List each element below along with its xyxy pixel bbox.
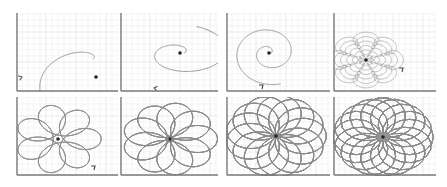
arrow-head-icon	[18, 76, 22, 81]
panel-5-epicycle-loops-sparse	[16, 97, 118, 176]
panel-3-spiral-multiple-turns	[226, 13, 330, 92]
panel-2-spiral-one-and-half-turns	[120, 13, 218, 92]
center-dot	[94, 75, 98, 79]
center-dot	[381, 135, 385, 139]
panel-1-open-spiral-single-turn	[16, 13, 118, 92]
center-dot	[364, 58, 368, 62]
end-marker-icon	[399, 68, 403, 72]
grid-lines	[226, 13, 330, 92]
grid-lines	[16, 97, 118, 176]
end-marker-icon	[259, 85, 263, 89]
end-marker-icon	[91, 166, 95, 170]
panel-7-epicycle-loops-dense	[226, 97, 330, 176]
center-dot	[56, 137, 60, 141]
panel-6-epicycle-loops-medium	[120, 97, 218, 176]
center-dot	[178, 51, 182, 55]
center-dot	[274, 134, 278, 138]
grid-lines	[16, 13, 118, 92]
panel-4-rosette-flower	[333, 13, 436, 92]
center-dot	[168, 137, 172, 141]
panel-8-epicycle-loops-densest	[333, 97, 436, 176]
grid-lines	[333, 13, 436, 92]
grid-lines	[120, 13, 218, 92]
center-dot	[267, 51, 271, 55]
